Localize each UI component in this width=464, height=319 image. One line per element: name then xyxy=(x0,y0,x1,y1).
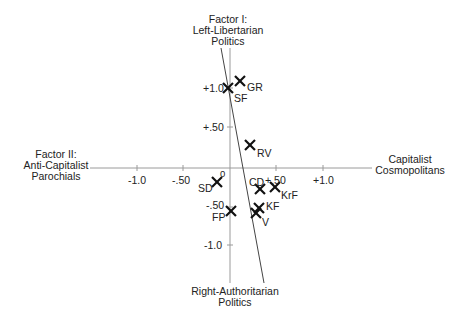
marker-rv-icon xyxy=(245,140,255,150)
tick-x-neg-050: -.50 xyxy=(172,174,190,186)
right-pole-line2: Cosmopolitans xyxy=(370,165,450,176)
tick-y-pos-050: +.50 xyxy=(203,121,224,133)
point-label-cd: CD xyxy=(249,176,264,188)
right-authoritarian-label: Right-Authoritarian Politics xyxy=(180,286,290,308)
factor-one-pole-top-2: Politics xyxy=(188,36,268,47)
point-label-v: V xyxy=(262,216,269,228)
factor-two-pole-left-2: Parochials xyxy=(18,171,94,182)
factor-two-label: Factor II: Anti-Capitalist Parochials xyxy=(18,149,94,182)
tick-y-neg-050: -.50 xyxy=(206,199,224,211)
tick-y-pos-1: +1.0 xyxy=(203,82,224,94)
point-label-kf: KF xyxy=(266,200,279,212)
point-label-fp: FP xyxy=(212,211,225,223)
marker-gr-icon xyxy=(235,76,245,86)
tick-x-pos-050: +.50 xyxy=(265,174,286,186)
factor-one-label: Factor I: Left-Libertarian Politics xyxy=(188,14,268,47)
tick-x-pos-1: +1.0 xyxy=(313,174,334,186)
capitalist-cosmopolitans-label: Capitalist Cosmopolitans xyxy=(370,154,450,176)
bottom-pole-line2: Politics xyxy=(180,297,290,308)
tick-y-neg-1: -1.0 xyxy=(204,239,222,251)
tick-x-zero: 0 xyxy=(220,168,225,179)
point-label-sd: SD xyxy=(198,182,213,194)
point-label-krf: KrF xyxy=(281,189,298,201)
tick-x-neg-1: -1.0 xyxy=(128,174,146,186)
point-label-rv: RV xyxy=(257,147,271,159)
point-label-gr: GR xyxy=(247,81,263,93)
point-label-sf: SF xyxy=(234,92,247,104)
